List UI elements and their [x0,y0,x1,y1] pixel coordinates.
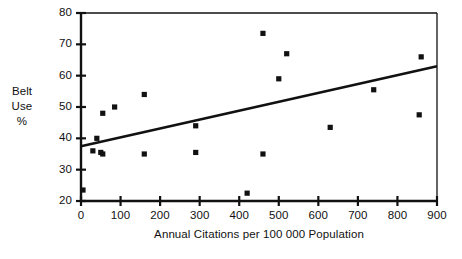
data-points-group [80,31,423,196]
trend-line [81,66,437,146]
x-tick-label: 800 [377,210,417,222]
data-point [193,123,198,128]
data-point [419,54,424,59]
data-point [260,31,265,36]
data-point [276,76,281,81]
trend-line-segment [81,66,437,146]
x-tick-label: 0 [61,210,101,222]
data-point [142,92,147,97]
data-point [90,148,95,153]
x-tick-label: 600 [298,210,338,222]
data-point [284,51,289,56]
y-axis-label-line-3: % [2,114,42,129]
y-tick-label: 30 [46,164,72,176]
data-point [371,87,376,92]
x-tick-label: 300 [180,210,220,222]
y-axis-label-line-2: Use [2,99,42,114]
data-point [100,151,105,156]
x-tick-label: 500 [259,210,299,222]
x-tick-label: 700 [338,210,378,222]
data-point [142,151,147,156]
data-point [417,112,422,117]
y-axis-label-line-1: Belt [2,84,42,99]
data-point [260,151,265,156]
y-axis-label: Belt Use % [2,84,42,129]
axis-group [76,13,437,206]
x-tick-label: 200 [140,210,180,222]
x-axis-title: Annual Citations per 100 000 Population [81,228,437,240]
data-point [100,111,105,116]
scatter-plot-figure: Belt Use % Annual Citations per 100 000 … [0,0,462,259]
data-point [80,187,85,192]
y-tick-label: 20 [46,195,72,207]
y-tick-label: 40 [46,132,72,144]
y-tick-label: 50 [46,101,72,113]
x-tick-label: 900 [417,210,457,222]
x-tick-label: 400 [219,210,259,222]
y-tick-label: 60 [46,70,72,82]
data-point [328,125,333,130]
y-tick-label: 70 [46,38,72,50]
x-tick-label: 100 [101,210,141,222]
y-tick-label: 80 [46,7,72,19]
data-point [112,104,117,109]
data-point [193,150,198,155]
data-point [245,191,250,196]
data-point [94,136,99,141]
